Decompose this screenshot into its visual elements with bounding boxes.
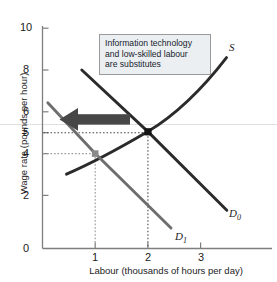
chart-figure: 10 8 6 5 4 2 0 1 2 3 Wage rate (pounds p… (0, 0, 277, 282)
demand-curve-initial (82, 70, 227, 210)
demand-shifted-curve-label: D1 (175, 230, 187, 245)
equilibrium-marker-initial (144, 128, 151, 135)
x-tick-label-3: 3 (193, 252, 209, 263)
callout-line-2: and low-skilled labour (105, 49, 206, 60)
callout-annotation: Information technology and low-skilled l… (99, 34, 211, 75)
equilibrium-marker-new (92, 150, 99, 157)
supply-curve-label: S (229, 41, 235, 53)
y-tick-label-0: 0 (18, 243, 34, 254)
y-tick-label-10: 10 (18, 22, 34, 33)
callout-line-3: are substitutes (105, 59, 206, 70)
dropline-new-equilibrium (44, 154, 96, 248)
x-tick-label-1: 1 (87, 252, 103, 263)
y-axis-title: Wage rate (pounds per hour) (18, 59, 29, 209)
demand-initial-curve-label: D0 (229, 207, 241, 222)
x-tick-label-2: 2 (140, 252, 156, 263)
callout-line-1: Information technology (105, 38, 206, 49)
y-axis-ticks (43, 28, 49, 195)
x-axis-title: Labour (thousands of hours per day) (66, 265, 266, 276)
